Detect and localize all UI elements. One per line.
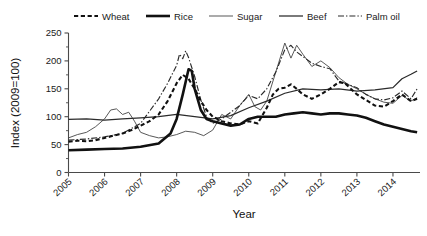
y-axis-tick-labels: 050100150200250 (46, 27, 62, 178)
y-tick-label: 250 (46, 27, 62, 38)
legend-label-rice: Rice (174, 11, 193, 22)
legend-label-palm-oil: Palm oil (366, 11, 400, 22)
y-axis-ticks (65, 33, 69, 173)
chart-container: Wheat Rice Sugar Beef Palm oil 05 (0, 0, 427, 236)
y-axis-title: Index (2009=100) (9, 58, 21, 149)
x-axis-ticks (69, 173, 393, 177)
x-tick-label: 2011 (268, 176, 291, 198)
plot-area (69, 43, 418, 150)
legend-item-rice: Rice (146, 11, 193, 22)
x-tick-label: 2014 (375, 176, 398, 198)
chart-svg: Wheat Rice Sugar Beef Palm oil 05 (0, 0, 427, 236)
legend-label-beef: Beef (307, 11, 327, 22)
x-tick-label: 2013 (339, 176, 362, 198)
x-axis-tick-labels: 2005200620072008200920102011201220132014 (51, 176, 399, 198)
legend-item-wheat: Wheat (74, 11, 130, 22)
x-axis-title: Year (232, 208, 255, 220)
x-tick-label: 2009 (195, 176, 218, 198)
legend-item-beef: Beef (279, 11, 327, 22)
x-axis: 2005200620072008200920102011201220132014… (51, 173, 420, 221)
y-axis: 050100150200250 Index (2009=100) (9, 27, 69, 178)
y-tick-label: 150 (46, 83, 62, 94)
chart-legend: Wheat Rice Sugar Beef Palm oil (74, 11, 400, 22)
legend-item-palm-oil: Palm oil (338, 11, 400, 22)
y-tick-label: 200 (46, 55, 62, 66)
y-tick-label: 50 (51, 139, 62, 150)
x-tick-label: 2012 (303, 176, 326, 198)
x-tick-label: 2007 (123, 176, 146, 198)
series-line-wheat (69, 75, 418, 142)
y-tick-label: 100 (46, 111, 62, 122)
x-tick-label: 2008 (159, 176, 182, 198)
legend-item-sugar: Sugar (209, 11, 262, 22)
x-tick-label: 2005 (51, 176, 74, 198)
x-tick-label: 2006 (87, 176, 110, 198)
legend-label-sugar: Sugar (237, 11, 262, 22)
series-line-palm-oil (69, 45, 418, 140)
x-tick-label: 2010 (231, 176, 254, 198)
legend-label-wheat: Wheat (102, 11, 130, 22)
y-tick-label: 0 (56, 167, 61, 178)
